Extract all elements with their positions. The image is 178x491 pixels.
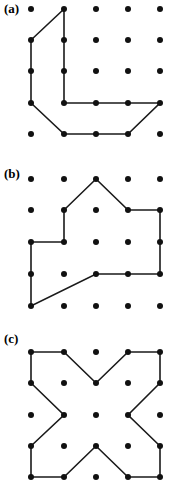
- lattice-dot: [157, 271, 163, 277]
- panel-a-lattice-diagram: [0, 0, 178, 165]
- lattice-dot: [28, 239, 34, 245]
- lattice-dot: [93, 6, 99, 12]
- lattice-dot: [125, 68, 131, 74]
- lattice-dot: [93, 131, 99, 137]
- figure-panel-b: (b): [0, 165, 178, 330]
- lattice-dot: [61, 271, 67, 277]
- lattice-dot: [157, 412, 163, 418]
- figure-panel-c: (c): [0, 330, 178, 491]
- lattice-dot: [125, 100, 131, 106]
- lattice-dot: [93, 474, 99, 480]
- lattice-dot: [157, 37, 163, 43]
- lattice-dot: [93, 380, 99, 386]
- lattice-dot: [125, 349, 131, 355]
- lattice-dot: [28, 380, 34, 386]
- lattice-dot: [61, 68, 67, 74]
- lattice-dot: [157, 474, 163, 480]
- lattice-dot: [93, 68, 99, 74]
- lattice-dot: [28, 412, 34, 418]
- lattice-dot: [125, 131, 131, 137]
- lattice-dot: [28, 271, 34, 277]
- lattice-dot: [61, 443, 67, 449]
- lattice-dot: [157, 176, 163, 182]
- lattice-dot: [125, 443, 131, 449]
- lattice-dot: [157, 349, 163, 355]
- lattice-dot: [61, 207, 67, 213]
- figure-panel-a: (a): [0, 0, 178, 165]
- lattice-dot: [61, 100, 67, 106]
- lattice-dot: [157, 6, 163, 12]
- lattice-dot: [61, 176, 67, 182]
- lattice-dot: [125, 37, 131, 43]
- lattice-dot: [125, 412, 131, 418]
- lattice-dot: [157, 100, 163, 106]
- lattice-dot: [93, 443, 99, 449]
- lattice-dot: [61, 6, 67, 12]
- lattice-dot: [93, 207, 99, 213]
- lattice-dot: [28, 131, 34, 137]
- lattice-dot: [157, 443, 163, 449]
- panel-b-lattice-diagram: [0, 165, 178, 330]
- panel-a-dot-grid: [28, 6, 163, 137]
- lattice-dot: [125, 474, 131, 480]
- panel-c-dot-grid: [28, 349, 163, 480]
- lattice-dot: [28, 443, 34, 449]
- lattice-dot: [125, 207, 131, 213]
- lattice-dot: [61, 380, 67, 386]
- lattice-dot: [157, 239, 163, 245]
- lattice-dot: [93, 176, 99, 182]
- lattice-dot: [28, 176, 34, 182]
- lattice-dot: [93, 100, 99, 106]
- panel-c-lattice-diagram: [0, 330, 178, 491]
- lattice-dot: [157, 207, 163, 213]
- lattice-dot: [61, 131, 67, 137]
- lattice-dot: [61, 412, 67, 418]
- lattice-dot: [125, 6, 131, 12]
- lattice-dot: [28, 68, 34, 74]
- lattice-dot: [93, 303, 99, 309]
- lattice-dot: [125, 239, 131, 245]
- lattice-dot: [28, 207, 34, 213]
- lattice-dot: [157, 131, 163, 137]
- lattice-dot: [28, 349, 34, 355]
- lattice-dot: [157, 380, 163, 386]
- lattice-dot: [93, 239, 99, 245]
- lattice-dot: [28, 37, 34, 43]
- lattice-dot: [93, 412, 99, 418]
- lattice-dot: [28, 474, 34, 480]
- lattice-dot: [28, 303, 34, 309]
- lattice-dot: [61, 349, 67, 355]
- lattice-dot: [28, 100, 34, 106]
- lattice-dot: [125, 176, 131, 182]
- lattice-dot: [93, 271, 99, 277]
- lattice-dot: [61, 303, 67, 309]
- lattice-dot: [61, 239, 67, 245]
- lattice-dot: [157, 68, 163, 74]
- lattice-dot: [93, 37, 99, 43]
- lattice-dot: [28, 6, 34, 12]
- lattice-dot: [125, 303, 131, 309]
- lattice-dot: [93, 349, 99, 355]
- lattice-dot: [125, 380, 131, 386]
- lattice-dot: [61, 474, 67, 480]
- lattice-dot: [157, 303, 163, 309]
- lattice-dot: [61, 37, 67, 43]
- lattice-dot: [125, 271, 131, 277]
